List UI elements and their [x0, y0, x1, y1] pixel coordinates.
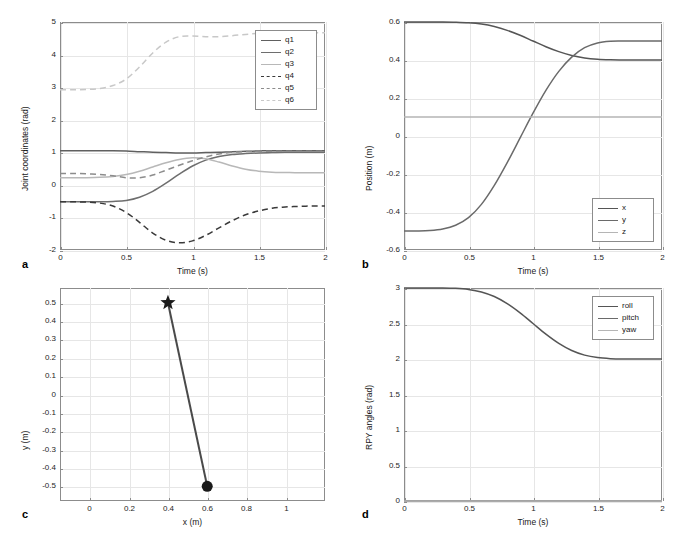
legend-item-yaw[interactable]: yaw — [598, 324, 648, 336]
legend-swatch-yaw — [598, 330, 618, 331]
legend-d: rollpitchyaw — [592, 296, 654, 340]
legend-label-yaw: yaw — [622, 324, 636, 336]
legend-label-pitch: pitch — [622, 312, 639, 324]
legend-label-roll: roll — [622, 300, 633, 312]
legend-swatch-pitch — [598, 318, 618, 319]
legend-swatch-roll — [598, 306, 618, 307]
series-layer-d — [0, 0, 691, 543]
y-axis-label-d: RPY angles (rad) — [364, 384, 374, 449]
panel-letter-d: d — [362, 508, 369, 520]
legend-item-pitch[interactable]: pitch — [598, 312, 648, 324]
x-axis-label-d: Time (s) — [493, 517, 573, 527]
panel-d: 00.511.5200.511.522.53Time (s)RPY angles… — [0, 0, 691, 543]
legend-item-roll[interactable]: roll — [598, 300, 648, 312]
